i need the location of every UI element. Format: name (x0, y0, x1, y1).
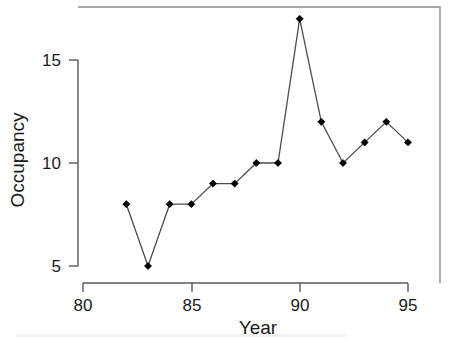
data-point (123, 201, 130, 208)
data-point (296, 15, 303, 22)
data-point (318, 118, 325, 125)
plot-frame-top-right (78, 7, 440, 283)
y-axis-title: Occupancy (7, 112, 28, 208)
line-chart: 15 10 5 80 85 90 95 Year Occupancy (0, 0, 452, 339)
data-point (166, 201, 173, 208)
x-tick-label-85: 85 (183, 296, 202, 315)
data-point (274, 159, 281, 166)
x-axis-tick-labels: 80 85 90 95 (74, 296, 418, 315)
y-tick-label-5: 5 (52, 257, 61, 276)
x-tick-label-90: 90 (291, 296, 310, 315)
x-axis-ticks (83, 283, 408, 292)
y-axis-tick-labels: 15 10 5 (42, 51, 61, 276)
scan-artifact (16, 334, 346, 337)
data-point (144, 262, 151, 269)
data-series-markers (123, 15, 412, 269)
chart-figure: 15 10 5 80 85 90 95 Year Occupancy (0, 0, 452, 339)
x-tick-label-80: 80 (74, 296, 93, 315)
y-tick-label-10: 10 (42, 154, 61, 173)
y-tick-label-15: 15 (42, 51, 61, 70)
x-tick-label-95: 95 (399, 296, 418, 315)
y-axis-ticks (69, 60, 78, 266)
